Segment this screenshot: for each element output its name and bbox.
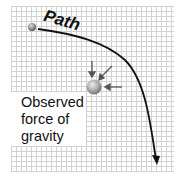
start-body-sphere-icon [28,23,36,31]
force-arrow-left-icon [105,84,122,90]
force-arrow-down-icon [89,61,95,77]
central-mass-sphere-icon [87,80,102,95]
observed-gravity-label: Observed force of gravity [21,94,91,145]
diagram-canvas: Path Observed force of gravity [0,0,180,180]
force-arrow-diagonal-icon [99,66,112,80]
path-arrowhead-icon [152,155,160,165]
diagram-graphics [0,0,180,180]
